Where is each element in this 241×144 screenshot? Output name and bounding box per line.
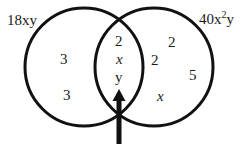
intersection-value: 2 — [115, 34, 123, 49]
right-only-value: x — [157, 89, 164, 104]
intersection-value: y — [115, 70, 123, 85]
left-only-value: 3 — [63, 88, 71, 103]
right-set-label: 40x2y — [199, 12, 234, 27]
right-label-tail: y — [227, 11, 235, 27]
right-label-base: 40x — [199, 11, 222, 27]
intersection-value: x — [116, 52, 123, 67]
left-set-label: 18xy — [7, 13, 37, 28]
right-only-value: 2 — [168, 35, 176, 50]
left-circle — [25, 8, 143, 126]
left-only-value: 3 — [60, 52, 68, 67]
right-only-value: 5 — [189, 68, 197, 83]
right-only-value: 2 — [151, 53, 159, 68]
right-label-exponent: 2 — [222, 9, 227, 20]
